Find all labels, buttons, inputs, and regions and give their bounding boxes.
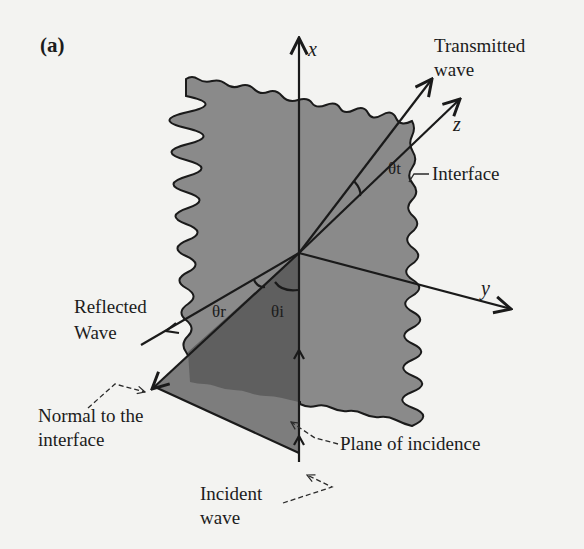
incident-label-2: wave: [200, 507, 240, 528]
z-axis-label: z: [452, 113, 461, 135]
interface-label: Interface: [432, 163, 500, 184]
normal-label-2: interface: [38, 429, 104, 450]
panel-label: (a): [40, 33, 65, 57]
normal-label-1: Normal to the: [38, 405, 144, 426]
theta-i-label: θi: [271, 302, 284, 321]
reflected-label-2: Wave: [74, 322, 117, 343]
transmitted-label-1: Transmitted: [434, 35, 526, 56]
interface-leader: [409, 174, 429, 182]
x-axis-label: x: [307, 38, 317, 60]
wave-reflection-diagram: (a) x z y Transmitted wave Interface Ref…: [0, 0, 584, 549]
incident-label-1: Incident: [200, 483, 263, 504]
plane-of-incidence-label: Plane of incidence: [340, 433, 480, 454]
transmitted-label-2: wave: [434, 59, 474, 80]
reflected-label-1: Reflected: [74, 296, 147, 317]
incident-leader: [283, 475, 332, 503]
theta-t-label: θt: [388, 159, 401, 178]
theta-r-label: θr: [212, 302, 226, 321]
y-axis-label: y: [479, 277, 490, 300]
